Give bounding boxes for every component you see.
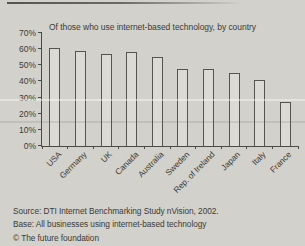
page: Of those who use internet-based technolo… <box>0 0 305 246</box>
x-tick-label: Japan <box>220 150 242 172</box>
y-tick-label: 30% <box>11 93 36 103</box>
top-rule <box>7 2 295 4</box>
x-axis-tick <box>93 146 94 149</box>
x-axis-tick <box>170 146 171 149</box>
x-tick-label: Italy <box>251 150 268 167</box>
x-tick-label: Germany <box>58 150 88 180</box>
plot-area: 0%10%20%30%40%50%60%70%USAGermanyUKCanad… <box>41 33 298 147</box>
bar-italy <box>254 80 265 146</box>
bar-canada <box>126 52 137 146</box>
base-note: Base: All businesses using internet-base… <box>13 218 219 231</box>
x-tick-label: France <box>269 150 294 175</box>
x-axis-tick <box>144 146 145 149</box>
y-tick-label: 20% <box>11 109 36 119</box>
bar-france <box>280 102 291 146</box>
y-axis-tick <box>38 64 42 65</box>
y-tick-label: 0% <box>11 141 36 151</box>
bar-usa <box>49 48 60 146</box>
y-axis-tick <box>38 129 42 130</box>
x-tick-label: UK <box>100 150 115 165</box>
chart-title: Of those who use internet-based technolo… <box>49 22 256 32</box>
x-axis-tick <box>272 146 273 149</box>
bar-germany <box>75 51 86 146</box>
bar-rep-of-ireland <box>203 69 214 146</box>
x-axis-tick <box>42 146 43 149</box>
x-axis-tick <box>246 146 247 149</box>
x-axis-tick <box>298 146 299 149</box>
bar-sweden <box>177 69 188 146</box>
y-tick-label: 70% <box>11 28 36 38</box>
y-tick-label: 50% <box>11 60 36 70</box>
x-axis-tick <box>195 146 196 149</box>
y-tick-label: 10% <box>11 125 36 135</box>
x-tick-label: Australia <box>136 150 165 179</box>
y-axis-tick <box>38 48 42 49</box>
copyright-note: © The future foundation <box>13 232 219 245</box>
bar-australia <box>152 57 163 146</box>
x-axis-tick <box>67 146 68 149</box>
x-tick-label: USA <box>45 150 63 168</box>
y-axis-tick <box>38 113 42 114</box>
y-tick-label: 60% <box>11 44 36 54</box>
y-axis-tick <box>38 80 42 81</box>
x-axis-tick <box>221 146 222 149</box>
y-axis-tick <box>38 32 42 33</box>
x-axis-tick <box>118 146 119 149</box>
y-axis-tick <box>38 97 42 98</box>
y-tick-label: 40% <box>11 76 36 86</box>
bar-uk <box>101 54 112 146</box>
source-note: Source: DTI Internet Benchmarking Study … <box>13 205 219 218</box>
footer: Source: DTI Internet Benchmarking Study … <box>13 205 219 245</box>
bar-japan <box>229 73 240 146</box>
